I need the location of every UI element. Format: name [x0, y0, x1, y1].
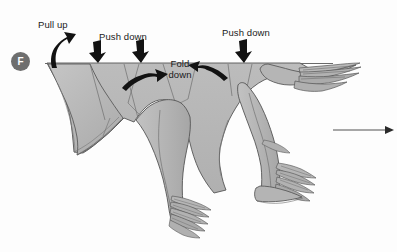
push-down-arrow-left — [89, 40, 106, 63]
label-push-down-left: Push down — [99, 31, 147, 42]
label-push-down-right: Push down — [222, 27, 270, 38]
push-down-arrow-mid — [132, 39, 149, 63]
right-leg — [238, 83, 316, 204]
step-badge-f: F — [11, 52, 30, 71]
label-fold-down: Fold down — [160, 58, 200, 80]
figure-canvas: F Pull up Push down Fold down Push down — [0, 0, 397, 252]
tail-section — [260, 63, 361, 91]
push-down-arrow-right — [235, 39, 252, 63]
label-pull-up: Pull up — [38, 19, 68, 30]
direction-of-motion-arrow — [333, 126, 394, 134]
bird-body-diagram — [0, 0, 397, 252]
